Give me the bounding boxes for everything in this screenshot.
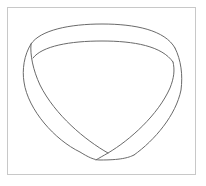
strip-left-outer-edge — [23, 44, 134, 160]
strip-right-inner-edge — [96, 62, 174, 160]
strip-left-inner-edge — [31, 44, 108, 153]
strip-right-outer-edge — [134, 48, 182, 155]
strip-outer-top-edge — [31, 24, 175, 48]
mobius-strip-figure — [0, 0, 206, 186]
mobius-strip-drawing — [0, 0, 206, 186]
strip-inner-top-edge — [33, 41, 173, 62]
